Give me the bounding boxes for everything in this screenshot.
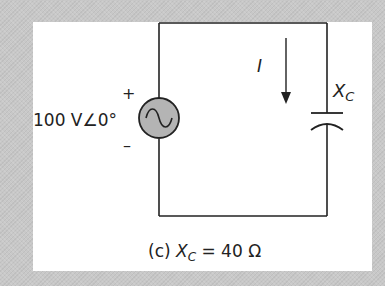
caption-prefix: (c) bbox=[148, 241, 176, 261]
capacitor-label-sub: C bbox=[345, 89, 355, 104]
circuit-diagram: I XC + – 100 V∠0° (c) XC = 40 Ω bbox=[0, 0, 385, 286]
plus-sign: + bbox=[122, 84, 135, 103]
figure-caption: (c) XC = 40 Ω bbox=[148, 241, 261, 264]
current-arrow-icon bbox=[281, 38, 291, 104]
caption-rest: = 40 Ω bbox=[196, 241, 261, 261]
ac-source-icon bbox=[139, 98, 179, 138]
wire-loop bbox=[159, 23, 327, 216]
minus-sign: – bbox=[123, 136, 131, 155]
source-voltage-label: 100 V∠0° bbox=[33, 110, 117, 130]
capacitor-label: XC bbox=[332, 80, 355, 104]
caption-var: X bbox=[175, 241, 188, 261]
capacitor-label-var: X bbox=[332, 80, 346, 101]
current-label: I bbox=[257, 56, 262, 76]
